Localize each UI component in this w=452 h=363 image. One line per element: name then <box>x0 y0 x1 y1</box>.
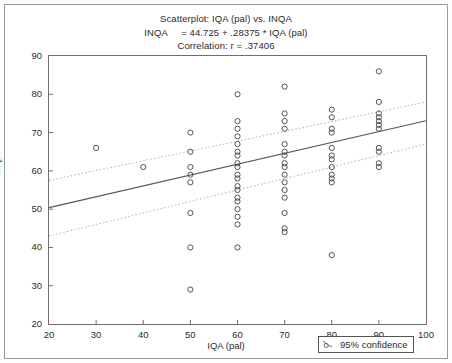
data-point <box>329 252 334 257</box>
data-point <box>329 180 334 185</box>
scatterplot-figure: Scatterplot: IQA (pal) vs. INQA INQA = 4… <box>0 0 452 363</box>
x-tick-label: 60 <box>223 329 253 340</box>
data-point <box>329 107 334 112</box>
x-tick-label: 20 <box>34 329 64 340</box>
y-tick-label: 30 <box>20 280 42 291</box>
x-tick-label: 100 <box>411 329 441 340</box>
data-point <box>376 149 381 154</box>
data-point <box>235 118 240 123</box>
data-point <box>282 141 287 146</box>
x-tick-label: 40 <box>128 329 158 340</box>
x-tick-label: 50 <box>175 329 205 340</box>
x-tick-label: 30 <box>81 329 111 340</box>
data-point <box>188 164 193 169</box>
data-point <box>235 187 240 192</box>
y-tick-label: 90 <box>20 50 42 61</box>
data-point <box>329 115 334 120</box>
y-tick-label: 60 <box>20 165 42 176</box>
data-point <box>282 180 287 185</box>
y-tick-label: 40 <box>20 241 42 252</box>
data-point <box>235 222 240 227</box>
plot-canvas <box>49 56 426 324</box>
data-point <box>235 164 240 169</box>
data-point <box>376 164 381 169</box>
chart-title-line-1: Scatterplot: IQA (pal) vs. INQA <box>0 12 452 26</box>
data-point <box>188 149 193 154</box>
data-point <box>188 180 193 185</box>
legend-label: 95% confidence <box>340 339 408 350</box>
data-point <box>188 287 193 292</box>
data-point <box>235 176 240 181</box>
data-point <box>329 157 334 162</box>
y-tick-label: 50 <box>20 203 42 214</box>
data-point <box>188 130 193 135</box>
data-point <box>235 134 240 139</box>
confidence-band-icon <box>322 339 338 350</box>
data-point <box>282 84 287 89</box>
data-point <box>188 245 193 250</box>
data-point <box>188 210 193 215</box>
data-point <box>282 118 287 123</box>
data-point <box>141 164 146 169</box>
chart-title-block: Scatterplot: IQA (pal) vs. INQA INQA = 4… <box>0 12 452 53</box>
data-point <box>235 153 240 158</box>
plot-area <box>48 55 427 325</box>
data-point <box>235 245 240 250</box>
data-point <box>235 92 240 97</box>
x-tick-label: 70 <box>270 329 300 340</box>
data-point <box>235 214 240 219</box>
data-point <box>94 145 99 150</box>
data-point <box>329 145 334 150</box>
y-axis-title: INQA <box>0 152 2 175</box>
legend-box[interactable]: 95% confidence <box>318 336 414 353</box>
data-point <box>235 141 240 146</box>
data-point <box>235 207 240 212</box>
data-point <box>235 126 240 131</box>
data-point <box>282 230 287 235</box>
data-point <box>282 172 287 177</box>
data-point <box>282 111 287 116</box>
data-point <box>282 164 287 169</box>
data-point <box>282 126 287 131</box>
data-point <box>376 69 381 74</box>
data-point <box>282 195 287 200</box>
chart-title-line-2: INQA = 44.725 + .28375 * IQA (pal) <box>0 26 452 40</box>
chart-title-line-3: Correlation: r = .37406 <box>0 39 452 53</box>
data-point <box>376 126 381 131</box>
data-point <box>235 199 240 204</box>
y-tick-label: 20 <box>20 318 42 329</box>
data-point <box>329 130 334 135</box>
data-point <box>282 210 287 215</box>
data-point <box>282 187 287 192</box>
y-tick-label: 80 <box>20 88 42 99</box>
y-tick-label: 70 <box>20 127 42 138</box>
data-point <box>376 99 381 104</box>
